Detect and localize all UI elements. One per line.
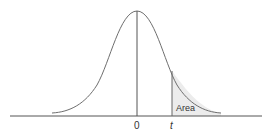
area-label: Area	[176, 103, 195, 113]
distribution-diagram: 0 t Area	[0, 0, 280, 137]
center-label: 0	[134, 120, 140, 131]
t-label: t	[170, 120, 174, 131]
